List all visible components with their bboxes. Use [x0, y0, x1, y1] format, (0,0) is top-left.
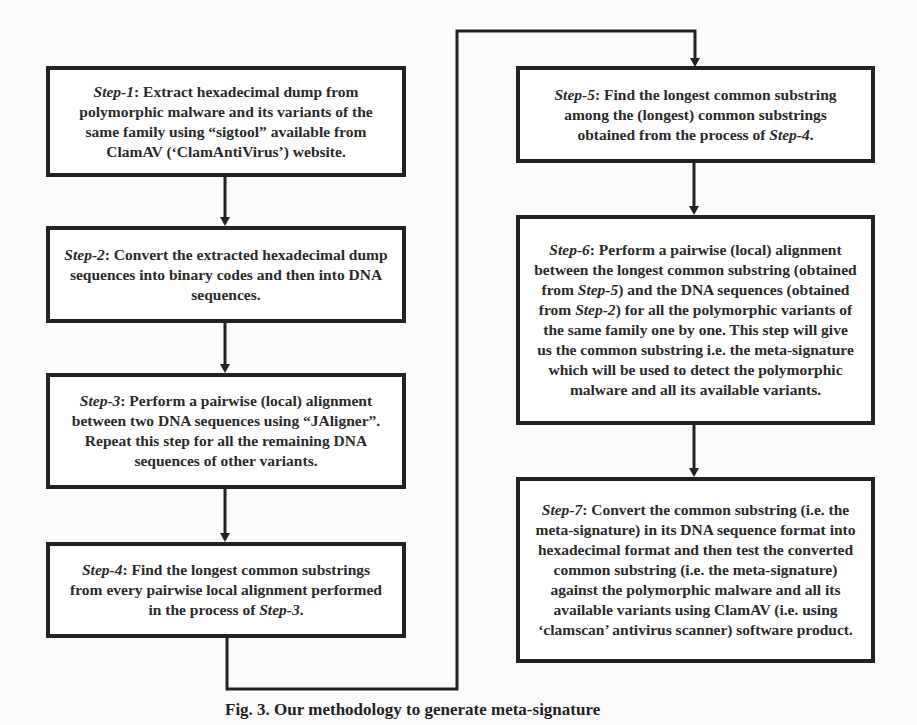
arrow-step1-to-step2: [220, 176, 230, 226]
arrow-step3-to-step4: [220, 488, 230, 542]
step-1-text: Step-1: Extract hexadecimal dump from po…: [64, 82, 388, 162]
figure-number: Fig. 3.: [225, 700, 270, 719]
figure-caption-text: Our methodology to generate meta-signatu…: [274, 700, 600, 719]
figure-caption: Fig. 3. Our methodology to generate meta…: [225, 700, 600, 720]
step-4-label: Step-4: [82, 561, 122, 578]
step-6-text: Step-6: Perform a pairwise (local) align…: [534, 240, 857, 400]
step-6-box: Step-6: Perform a pairwise (local) align…: [516, 215, 875, 425]
step-2-text: Step-2: Convert the extracted hexadecima…: [64, 245, 388, 305]
step-7-box: Step-7: Convert the common substring (i.…: [516, 477, 875, 663]
arrow-step2-to-step3: [220, 322, 230, 373]
step-6-ref-step-2: Step-2: [575, 301, 615, 318]
step-5-ref-step-4: Step-4: [769, 126, 809, 143]
step-2-box: Step-2: Convert the extracted hexadecima…: [46, 226, 406, 323]
step-3-text: Step-3: Perform a pairwise (local) align…: [64, 391, 388, 471]
step-5-box: Step-5: Find the longest common substrin…: [516, 66, 875, 163]
step-1-label: Step-1: [94, 83, 134, 100]
step-7-label: Step-7: [542, 501, 582, 518]
step-3-label: Step-3: [80, 392, 120, 409]
step-4-ref-step-3: Step-3: [259, 601, 299, 618]
step-5-text: Step-5: Find the longest common substrin…: [534, 85, 857, 145]
step-4-text: Step-4: Find the longest common substrin…: [64, 560, 388, 620]
step-5-label: Step-5: [554, 86, 594, 103]
arrow-step5-to-step6: [689, 162, 699, 215]
step-3-box: Step-3: Perform a pairwise (local) align…: [46, 373, 406, 489]
step-6-ref-step-5: Step-5: [578, 281, 618, 298]
step-6-label: Step-6: [549, 241, 589, 258]
step-2-label: Step-2: [64, 246, 104, 263]
flowchart-canvas: Step-1: Extract hexadecimal dump from po…: [0, 0, 917, 725]
step-7-text: Step-7: Convert the common substring (i.…: [534, 500, 857, 640]
step-1-box: Step-1: Extract hexadecimal dump from po…: [46, 66, 406, 177]
step-4-box: Step-4: Find the longest common substrin…: [46, 542, 406, 638]
arrow-step6-to-step7: [689, 424, 699, 477]
